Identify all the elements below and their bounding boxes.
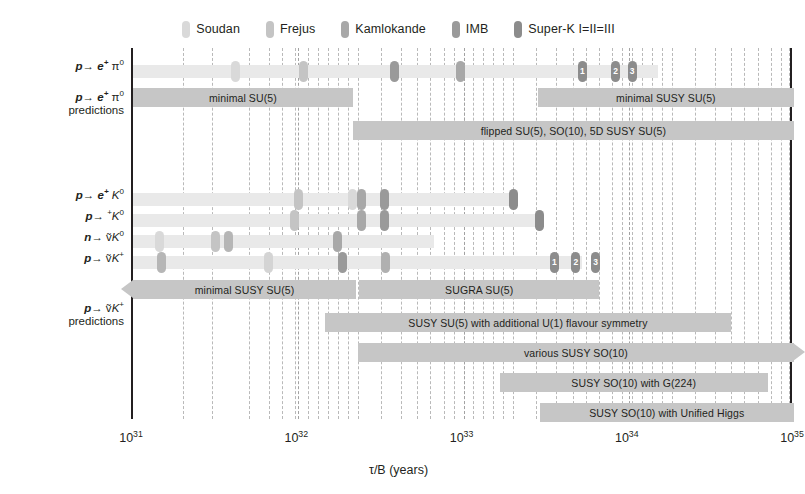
prediction-bar: SUSY SO(10) with G(224) xyxy=(500,373,768,392)
arrow-left-icon xyxy=(121,280,133,298)
legend-swatch-icon xyxy=(182,21,190,38)
legend-label: Kamlokande xyxy=(355,22,426,36)
experiment-marker: 3 xyxy=(628,61,637,82)
prediction-bar: SUGRA SU(5) xyxy=(359,280,599,299)
legend-item-3: IMB xyxy=(452,21,489,38)
legend-label: IMB xyxy=(466,22,489,36)
prediction-bar-label: SUGRA SU(5) xyxy=(445,284,513,296)
row-label-p-nu-Kplus: p→ ṽK+ xyxy=(84,250,124,265)
experiment-marker: 3 xyxy=(591,252,600,273)
experiment-marker xyxy=(535,210,544,231)
prediction-bar-label: minimal SU(5) xyxy=(209,92,277,104)
prediction-bar: SUSY SO(10) with Unified Higgs xyxy=(540,403,794,422)
row-label-p-nu-Kplus-predictions: p→ ṽK+predictions xyxy=(68,300,124,329)
legend-swatch-icon xyxy=(266,21,274,38)
experiment-marker xyxy=(456,61,465,82)
experiment-marker xyxy=(357,189,366,210)
experiment-marker xyxy=(357,210,366,231)
experiment-marker xyxy=(338,252,347,273)
experiment-marker xyxy=(294,189,303,210)
legend-item-1: Frejus xyxy=(266,21,315,38)
prediction-bar: minimal SUSY SU(5) xyxy=(133,280,356,299)
legend-item-0: Soudan xyxy=(182,21,240,38)
row-label-p-mu-K0: p→ +K0 xyxy=(85,208,124,223)
experiment-marker xyxy=(155,231,164,252)
prediction-bar-label: SUSY SO(10) with G(224) xyxy=(571,377,696,389)
legend-swatch-icon xyxy=(514,21,522,38)
data-layer: 123123minimal SU(5)minimal SUSY SU(5)fli… xyxy=(133,48,790,419)
experiment-marker xyxy=(299,61,308,82)
experiment-marker: 2 xyxy=(611,61,620,82)
legend-label: Frejus xyxy=(280,22,315,36)
prediction-bar-label: flipped SU(5), SO(10), 5D SUSY SU(5) xyxy=(481,125,666,137)
x-tick-label: 1033 xyxy=(450,429,474,445)
legend-label: Super-K I=II=III xyxy=(528,22,614,36)
experiment-marker xyxy=(380,210,389,231)
experiment-marker xyxy=(390,61,399,82)
prediction-bar-label: various SUSY SO(10) xyxy=(524,347,628,359)
experiment-marker xyxy=(211,231,220,252)
experiment-marker xyxy=(231,61,240,82)
x-tick-label: 1035 xyxy=(780,429,804,445)
experiment-marker: 2 xyxy=(571,252,580,273)
row-label-p-e-pi-predictions: p→ e+ π0predictions xyxy=(68,89,124,118)
experiment-marker xyxy=(380,189,389,210)
prediction-bar: flipped SU(5), SO(10), 5D SUSY SU(5) xyxy=(353,121,794,140)
limit-bar xyxy=(133,193,518,206)
prediction-bar: minimal SUSY SU(5) xyxy=(538,88,794,107)
legend-swatch-icon xyxy=(452,21,460,38)
limit-bar xyxy=(133,256,582,269)
x-axis-title: τ/B (years) xyxy=(0,463,797,477)
x-tick-label: 1031 xyxy=(119,429,143,445)
legend-item-2: Kamlokande xyxy=(341,21,426,38)
legend: SoudanFrejusKamlokandeIMBSuper-K I=II=II… xyxy=(0,18,797,40)
limit-bar xyxy=(133,235,434,248)
legend-label: Soudan xyxy=(196,22,240,36)
experiment-marker xyxy=(224,231,233,252)
plot-area: 123123minimal SU(5)minimal SUSY SU(5)fli… xyxy=(131,48,792,419)
prediction-bar-label: SUSY SO(10) with Unified Higgs xyxy=(589,407,744,419)
limit-bar xyxy=(133,214,543,227)
row-label-p-e-pi: p→ e+ π0 xyxy=(76,58,124,73)
experiment-marker xyxy=(509,189,518,210)
experiment-marker xyxy=(290,210,299,231)
experiment-marker xyxy=(264,252,273,273)
prediction-bar-label: minimal SUSY SU(5) xyxy=(616,92,716,104)
legend-swatch-icon xyxy=(341,21,349,38)
legend-item-4: Super-K I=II=III xyxy=(514,21,614,38)
prediction-bar-label: minimal SUSY SU(5) xyxy=(195,284,295,296)
experiment-marker xyxy=(157,252,166,273)
experiment-marker xyxy=(333,231,342,252)
arrow-right-icon xyxy=(793,343,805,361)
experiment-marker xyxy=(381,252,390,273)
x-tick-label: 1034 xyxy=(615,429,639,445)
prediction-bar-label: SUSY SU(5) with additional U(1) flavour … xyxy=(408,317,647,329)
experiment-marker xyxy=(348,189,357,210)
row-label-p-e-K0: p→ e+ K0 xyxy=(76,187,124,202)
row-label-n-nu-K0: n→ ṽK0 xyxy=(84,229,124,244)
prediction-bar: various SUSY SO(10) xyxy=(358,343,794,362)
x-tick-label: 1032 xyxy=(284,429,308,445)
experiment-marker: 1 xyxy=(550,252,559,273)
prediction-bar: minimal SU(5) xyxy=(133,88,353,107)
prediction-bar: SUSY SU(5) with additional U(1) flavour … xyxy=(325,313,732,332)
experiment-marker: 1 xyxy=(578,61,587,82)
